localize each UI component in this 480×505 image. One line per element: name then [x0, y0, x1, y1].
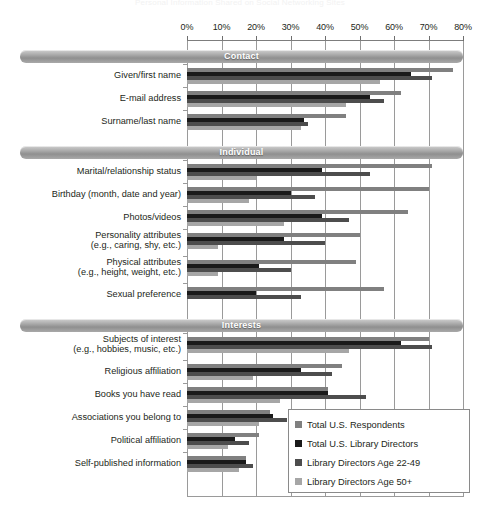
bar-3 — [187, 468, 239, 472]
category-label: Associations you belong to — [0, 412, 181, 422]
category-label: Physical attributes (e.g., height, weigh… — [0, 257, 181, 277]
legend-swatch — [295, 440, 302, 447]
section-header-contact: Contact — [20, 50, 463, 63]
category-label: Books you have read — [0, 389, 181, 399]
legend-swatch — [295, 421, 302, 428]
section-title: Individual — [20, 147, 463, 157]
bar-3 — [187, 80, 380, 84]
legend-label: Total U.S. Library Directors — [307, 439, 418, 449]
bar-3 — [187, 376, 253, 380]
category-label: Birthday (month, date and year) — [0, 189, 181, 199]
bar-3 — [187, 349, 349, 353]
legend-swatch — [295, 459, 302, 466]
legend-item: Library Directors Age 22-49 — [295, 453, 463, 472]
section-title: Contact — [20, 51, 463, 61]
category-label: Political affiliation — [0, 435, 181, 445]
survey-bar-chart: Personal Information Shared on Social Ne… — [0, 0, 480, 505]
bar-3 — [187, 272, 218, 276]
legend-label: Library Directors Age 50+ — [307, 477, 412, 487]
category-label: Surname/last name — [0, 116, 181, 126]
bar-3 — [187, 103, 346, 107]
category-label: Religious affiliation — [0, 366, 181, 376]
bar-3 — [187, 245, 218, 249]
bar-3 — [187, 445, 228, 449]
bar-3 — [187, 422, 259, 426]
legend-label: Total U.S. Respondents — [307, 420, 405, 430]
bar-3 — [187, 126, 301, 130]
bar-3 — [187, 399, 280, 403]
category-label: Marital/relationship status — [0, 166, 181, 176]
section-header-interests: Interests — [20, 319, 463, 332]
category-label: Photos/videos — [0, 212, 181, 222]
category-label: Self-published information — [0, 458, 181, 468]
chart-legend: Total U.S. RespondentsTotal U.S. Library… — [288, 409, 470, 493]
category-label: Personality attributes (e.g., caring, sh… — [0, 230, 181, 250]
category-label: Given/first name — [0, 70, 181, 80]
legend-label: Library Directors Age 22-49 — [307, 458, 420, 468]
section-header-individual: Individual — [20, 146, 463, 159]
section-title: Interests — [20, 320, 463, 330]
legend-item: Total U.S. Respondents — [295, 415, 463, 434]
category-label: E-mail address — [0, 93, 181, 103]
legend-swatch — [295, 478, 302, 485]
bar-3 — [187, 222, 284, 226]
bar-2 — [187, 295, 301, 299]
bar-3 — [187, 199, 249, 203]
legend-item: Library Directors Age 50+ — [295, 472, 463, 491]
bar-3 — [187, 176, 256, 180]
category-label: Sexual preference — [0, 289, 181, 299]
legend-item: Total U.S. Library Directors — [295, 434, 463, 453]
category-label: Subjects of interest (e.g., hobbies, mus… — [0, 334, 181, 354]
